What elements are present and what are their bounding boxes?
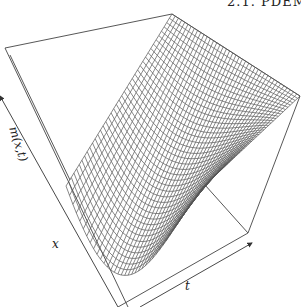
surface-plot: m(x,t) x t xyxy=(0,0,301,307)
x-axis-label: x xyxy=(52,237,59,251)
surface-mesh xyxy=(66,14,300,275)
box-inner-edge xyxy=(205,185,248,233)
mesh-lines xyxy=(66,14,300,275)
t-axis-label: t xyxy=(185,279,190,293)
box-bottom-edge xyxy=(118,233,248,307)
box-top-left-edge xyxy=(5,14,172,48)
